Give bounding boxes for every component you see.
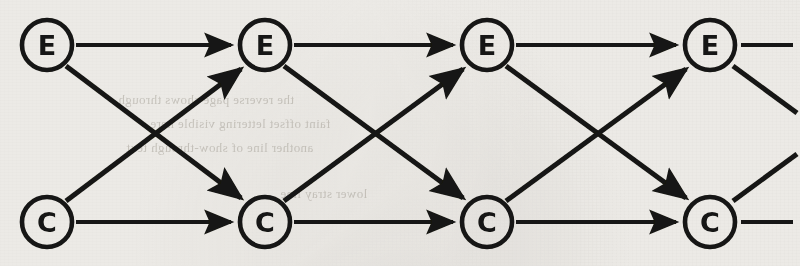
node-C3[interactable]: C <box>685 197 735 247</box>
node-E1[interactable]: E <box>240 20 290 70</box>
node-E3[interactable]: E <box>685 20 735 70</box>
node-C0-label: C <box>37 207 57 238</box>
node-E2[interactable]: E <box>462 20 512 70</box>
node-E0[interactable]: E <box>22 20 72 70</box>
stub-E3-diagonal-down <box>733 66 797 113</box>
node-C0[interactable]: C <box>22 197 72 247</box>
figure-canvas: the reverse page shows throughfaint offs… <box>0 0 800 266</box>
node-E1-label: E <box>256 30 274 61</box>
stub-C3-diagonal-up <box>733 154 797 201</box>
node-C1[interactable]: C <box>240 197 290 247</box>
node-E0-label: E <box>38 30 56 61</box>
node-C1-label: C <box>255 207 275 238</box>
node-E2-label: E <box>478 30 496 61</box>
node-C2[interactable]: C <box>462 197 512 247</box>
node-E3-label: E <box>701 30 719 61</box>
node-C3-label: C <box>700 207 720 238</box>
node-C2-label: C <box>477 207 497 238</box>
trellis-diagram: E E E E C C <box>0 0 800 266</box>
